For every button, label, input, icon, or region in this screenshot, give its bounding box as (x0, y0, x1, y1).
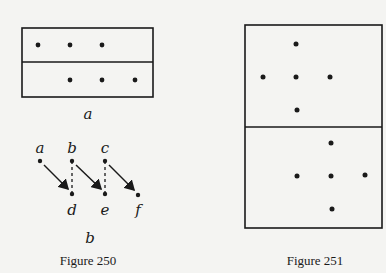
panel-b-label: b (85, 229, 95, 247)
figure-canvas (0, 0, 386, 273)
dot (294, 75, 299, 80)
dot (329, 174, 334, 179)
dot (330, 207, 335, 212)
dot (70, 192, 74, 196)
figure-251-caption: Figure 251 (287, 253, 344, 269)
dot (70, 159, 74, 163)
dot (103, 159, 107, 163)
node-label-b: b (67, 139, 77, 157)
node-label-a: a (36, 139, 45, 157)
node-label-d: d (67, 201, 77, 219)
figure-251-diagram (245, 25, 382, 228)
dot (294, 42, 299, 47)
dot (68, 43, 73, 48)
figure-250a-diagram (22, 28, 153, 97)
arrow (44, 165, 68, 189)
dot (136, 193, 140, 197)
dot (133, 78, 138, 83)
dot (328, 75, 333, 80)
figure-250-caption: Figure 250 (60, 253, 117, 269)
figure-250b-diagram (38, 159, 140, 197)
dot (363, 173, 368, 178)
dot (261, 75, 266, 80)
dot (68, 78, 73, 83)
dot (100, 43, 105, 48)
arrow (76, 165, 101, 189)
dot (36, 43, 41, 48)
dot (100, 78, 105, 83)
node-label-f: f (135, 201, 141, 219)
arrow (109, 165, 134, 190)
dot (329, 141, 334, 146)
node-label-e: e (101, 201, 110, 219)
dot (295, 174, 300, 179)
panel-a-label: a (84, 105, 93, 123)
dot (295, 108, 300, 113)
node-label-c: c (101, 139, 109, 157)
dot (103, 192, 107, 196)
dot (38, 159, 42, 163)
